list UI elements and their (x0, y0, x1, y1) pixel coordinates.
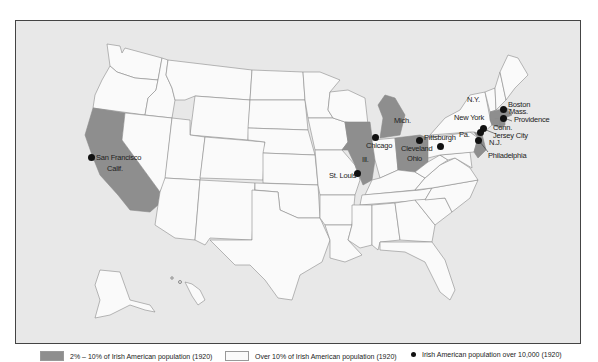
legend-label: Irish American population over 10,000 (1… (422, 351, 562, 358)
city-dot-pittsburgh (437, 143, 444, 150)
state-colorado (200, 137, 265, 180)
city-label-cleveland: Cleveland (401, 145, 433, 153)
state-label-calif: Calif. (107, 165, 123, 173)
state-arizona (155, 178, 200, 240)
legend-label: Over 10% of Irish American population (1… (255, 353, 397, 360)
city-label-chicago: Chicago (366, 142, 392, 150)
city-dot-cleveland (416, 137, 423, 144)
state-wyoming (190, 96, 250, 140)
legend-dot-icon (411, 352, 416, 357)
city-label-jersey-city: Jersey City (493, 132, 528, 140)
state-label-pa: Pa. (459, 131, 470, 139)
legend-item-over-10-percent: Over 10% of Irish American population (1… (225, 351, 397, 361)
us-map (0, 0, 598, 362)
city-label-san-francisco: San Francisco (96, 154, 141, 162)
state-arkansas (320, 195, 355, 225)
legend-swatch-light (225, 351, 249, 361)
state-florida (380, 242, 455, 300)
city-dot-san-francisco (88, 154, 95, 161)
state-iowa (308, 118, 348, 150)
city-dot-philadelphia (475, 137, 482, 144)
city-label-boston: Boston (508, 101, 530, 109)
city-label-new-york: New York (454, 114, 484, 122)
state-label-nj: N.J. (489, 139, 502, 147)
legend-label: 2% – 10% of Irish American population (1… (70, 353, 212, 360)
state-new-mexico (195, 180, 255, 245)
city-label-providence: Providence (514, 116, 550, 124)
city-dot-chicago (372, 134, 379, 141)
state-alaska (95, 270, 155, 318)
state-label-mich: Mich. (394, 117, 411, 125)
state-label-ny: N.Y. (467, 96, 480, 104)
state-hawaii (185, 282, 205, 305)
city-label-st-louis: St. Louis (329, 172, 356, 180)
city-label-philadelphia: Philadelphia (488, 152, 526, 160)
state-montana (166, 60, 252, 100)
state-kansas (263, 153, 318, 185)
legend-swatch-dark (40, 351, 64, 361)
legend-item-2-10-percent: 2% – 10% of Irish American population (1… (40, 351, 212, 361)
city-dot-jersey-city (477, 129, 484, 136)
state-label-ill: Ill. (362, 156, 369, 164)
city-dot-boston (500, 106, 507, 113)
state-north-dakota (250, 70, 305, 100)
state-south-dakota (248, 100, 308, 130)
city-dot-providence (500, 115, 507, 122)
city-label-pittsburgh: Pittsburgh (424, 134, 456, 142)
legend-item-city: Irish American population over 10,000 (1… (411, 351, 562, 358)
state-label-ohio: Ohio (407, 155, 422, 163)
